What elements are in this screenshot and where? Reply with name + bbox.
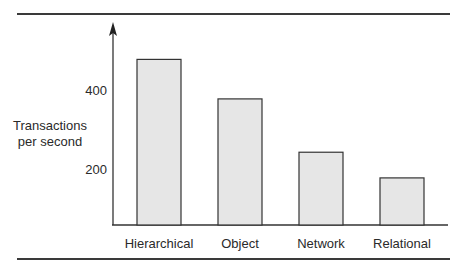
x-category-object: Object [195,236,285,251]
bottom-rule [17,258,450,260]
y-axis-label: Transactions per second [10,118,90,150]
x-category-relational: Relational [357,236,447,251]
y-axis-label-line-1: Transactions [10,118,90,134]
y-tick-label-400: 400 [67,83,107,98]
y-tick-label-200: 200 [67,162,107,177]
x-category-hierarchical: Hierarchical [114,236,204,251]
x-category-network: Network [276,236,366,251]
bar-relational [380,178,424,225]
bar-hierarchical [137,59,181,225]
bar-object [218,99,262,225]
y-axis-label-line-2: per second [10,134,90,150]
bars-group [137,59,424,225]
bar-network [299,152,343,225]
